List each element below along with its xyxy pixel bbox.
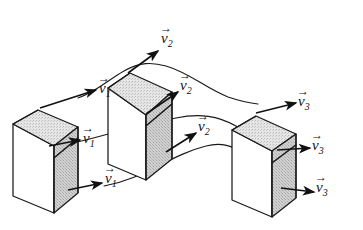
vector-subscript: 3 [323,187,328,198]
vector-symbol: →v [198,117,205,134]
vector-arrow-accent: → [104,162,116,174]
fluid-element-1 [13,110,78,213]
vector-subscript: 1 [112,178,117,189]
vector-arrow-accent: → [315,171,327,183]
vector-label-v3-top: →v3 [298,92,310,109]
vector-symbol: →v [105,169,112,186]
vector-arrow-accent: → [297,85,309,97]
vector-symbol: →v [298,92,305,109]
vector-label-v2-top: →v2 [161,29,173,46]
vector-arrow-accent: → [82,122,94,134]
velocity-arrow-v2-top [128,51,158,73]
vector-symbol: →v [99,79,106,96]
vector-symbol: →v [312,136,319,153]
vector-symbol: →v [83,129,90,146]
vector-subscript: 3 [319,145,324,156]
vector-subscript: 2 [187,85,192,96]
vector-arrow-accent: → [197,110,209,122]
vector-subscript: 2 [168,38,173,49]
velocity-arrow-v3-top [256,103,296,113]
vector-subscript: 1 [90,138,95,149]
vector-label-v1-bottom: →v1 [105,169,117,186]
vector-arrow-accent: → [160,22,172,34]
vector-subscript: 2 [205,126,210,137]
fluid-element-3 [232,116,296,217]
vector-label-v2-middle: →v2 [180,76,192,93]
vector-label-v2-bottom: →v2 [198,117,210,134]
vector-subscript: 3 [305,101,310,112]
vector-label-v3-middle: →v3 [312,136,324,153]
vector-symbol: →v [180,76,187,93]
vector-subscript: 1 [106,88,111,99]
vector-arrow-accent: → [98,72,110,84]
vector-label-v1-top: →v1 [99,79,111,96]
vector-arrow-accent: → [311,129,323,141]
vector-arrow-accent: → [179,69,191,81]
vector-label-v1-middle: →v1 [83,129,95,146]
vector-symbol: →v [316,178,323,195]
vector-symbol: →v [161,29,168,46]
velocity-arrow-v1-top [40,90,96,108]
fluid-element-2 [108,73,172,180]
vector-label-v3-bottom: →v3 [316,178,328,195]
fluid-element-diagram [0,0,363,230]
figure-canvas: →v1 →v1 →v1 →v2 →v2 →v2 →v3 →v3 →v3 [0,0,363,230]
